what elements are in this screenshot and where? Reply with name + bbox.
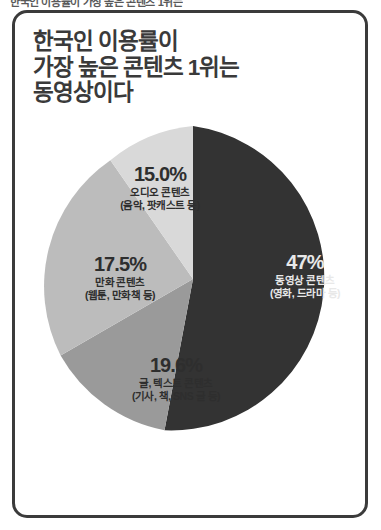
pie-label-audio-name: 오디오 콘텐츠 <box>97 186 223 199</box>
pie-label-comic-sub: (웹툰, 만화책 등) <box>57 289 183 302</box>
pie-label-video-sub: (영화, 드라마 등) <box>247 287 363 300</box>
pie-label-text: 19.6% 글, 텍스트 콘텐츠 (기사, 책, SNS 글 등) <box>108 354 244 403</box>
pie-label-audio-sub: (음악, 팟캐스트 등) <box>97 199 223 212</box>
infographic-card: 한국인 이용률이 가장 높은 콘텐츠 1위는 동영상이다 47% 동영상 콘텐츠… <box>12 10 368 518</box>
pie-label-comic: 17.5% 만화 콘텐츠 (웹툰, 만화책 등) <box>57 253 183 302</box>
pie-label-video: 47% 동영상 콘텐츠 (영화, 드라마 등) <box>247 251 363 300</box>
pie-label-text-name: 글, 텍스트 콘텐츠 <box>108 377 244 390</box>
pie-label-video-percent: 47% <box>247 251 363 274</box>
pie-label-text-sub: (기사, 책, SNS 글 등) <box>108 390 244 403</box>
pie-label-audio: 15.0% 오디오 콘텐츠 (음악, 팟캐스트 등) <box>97 163 223 212</box>
page-title: 한국인 이용률이 가장 높은 콘텐츠 1위는 동영상이다 <box>33 29 333 106</box>
pie-label-comic-percent: 17.5% <box>57 253 183 276</box>
pie-label-text-percent: 19.6% <box>108 354 244 377</box>
pie-label-comic-name: 만화 콘텐츠 <box>57 276 183 289</box>
cropped-top-caption: 한국인 이용률이 가장 높은 콘텐츠 1위는 <box>10 0 260 9</box>
pie-label-video-name: 동영상 콘텐츠 <box>247 274 363 287</box>
infographic-page: 한국인 이용률이 가장 높은 콘텐츠 1위는 한국인 이용률이 가장 높은 콘텐… <box>0 0 381 530</box>
pie-label-audio-percent: 15.0% <box>97 163 223 186</box>
